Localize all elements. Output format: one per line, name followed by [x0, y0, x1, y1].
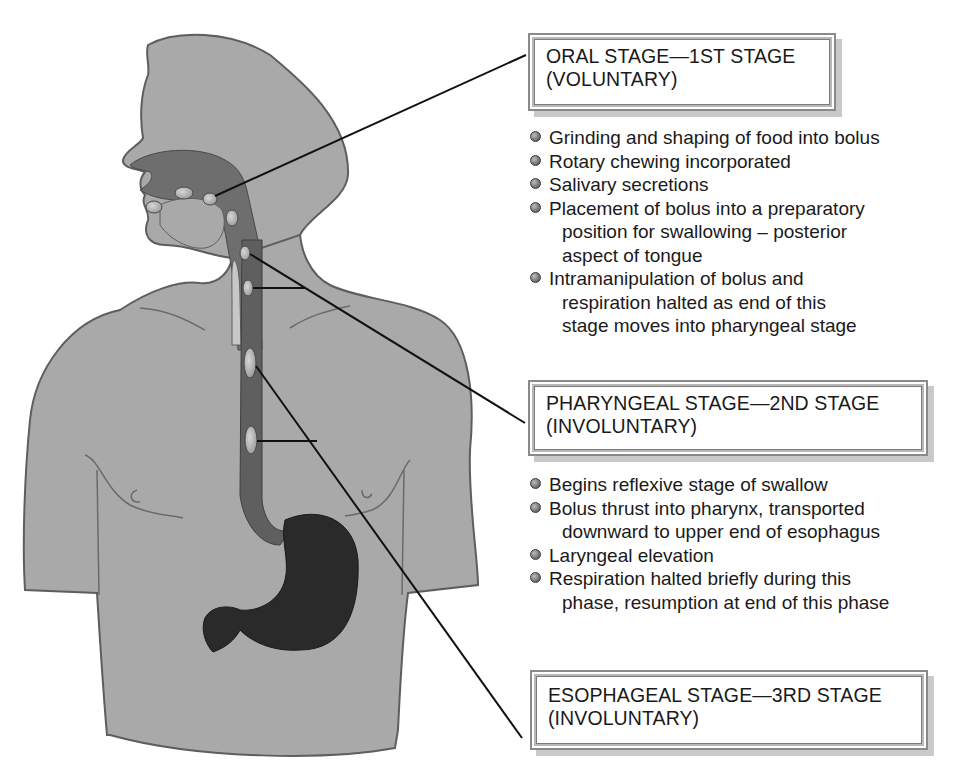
bolus-palate: [175, 187, 193, 199]
esophageal-stage-title: ESOPHAGEAL STAGE—3RD STAGE: [548, 684, 926, 707]
bolus-lips: [146, 201, 162, 213]
bullet-item: Laryngeal elevation: [529, 544, 889, 568]
esophageal-stage-box: ESOPHAGEAL STAGE—3RD STAGE (INVOLUNTARY): [530, 670, 928, 750]
bullet-icon: [530, 572, 541, 583]
bullet-icon: [530, 178, 541, 189]
bullet-item: Grinding and shaping of food into bolus: [529, 126, 880, 150]
bolus-mid-esophagus: [244, 348, 256, 378]
bolus-oropharynx: [226, 210, 238, 226]
oral-stage-subtitle: (VOLUNTARY): [546, 68, 834, 91]
bullet-item: Begins reflexive stage of swallow: [529, 473, 889, 497]
pharyngeal-stage-title: PHARYNGEAL STAGE—2ND STAGE: [546, 392, 926, 415]
pharyngeal-stage-bullets: Begins reflexive stage of swallow Bolus …: [529, 473, 889, 614]
bullet-item: Salivary secretions: [529, 173, 880, 197]
esophageal-stage-subtitle: (INVOLUNTARY): [548, 707, 926, 730]
bullet-icon: [530, 272, 541, 283]
bullet-icon: [530, 131, 541, 142]
bolus-oral: [203, 193, 217, 205]
bolus-pharynx: [240, 246, 250, 260]
bolus-upper-esophagus: [243, 280, 253, 296]
bullet-icon: [530, 549, 541, 560]
bullet-item: Rotary chewing incorporated: [529, 150, 880, 174]
bullet-item: Placement of bolus into a preparatory po…: [529, 197, 880, 268]
pharyngeal-stage-subtitle: (INVOLUNTARY): [546, 415, 926, 438]
bullet-item: Respiration halted briefly during this p…: [529, 567, 889, 614]
oral-stage-title: ORAL STAGE—1ST STAGE: [546, 45, 834, 68]
bullet-icon: [530, 155, 541, 166]
oral-stage-box: ORAL STAGE—1ST STAGE (VOLUNTARY): [528, 33, 836, 111]
bullet-icon: [530, 502, 541, 513]
pharyngeal-stage-box: PHARYNGEAL STAGE—2ND STAGE (INVOLUNTARY): [528, 380, 928, 456]
bolus-lower-esophagus: [245, 426, 257, 454]
bullet-icon: [530, 478, 541, 489]
swallowing-stages-figure: ORAL STAGE—1ST STAGE (VOLUNTARY) Grindin…: [0, 0, 958, 778]
oral-stage-bullets: Grinding and shaping of food into bolus …: [529, 126, 880, 338]
bullet-item: Bolus thrust into pharynx, transported d…: [529, 497, 889, 544]
bullet-icon: [530, 202, 541, 213]
bullet-item: Intramanipulation of bolus and respirati…: [529, 267, 880, 338]
